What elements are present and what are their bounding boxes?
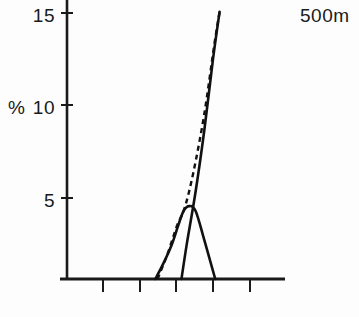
depth-annotation: 500m [300,5,350,26]
y-tick-label-5: 5 [44,190,55,211]
series-bell-curve-solid [155,206,215,279]
y-tick-label-10: 10 [33,97,55,118]
y-tick-label-15: 15 [33,5,55,26]
y-axis-label: % [8,97,25,118]
chart-canvas: 15 10 5 % 500m [0,0,359,317]
data-series-group [155,12,219,279]
